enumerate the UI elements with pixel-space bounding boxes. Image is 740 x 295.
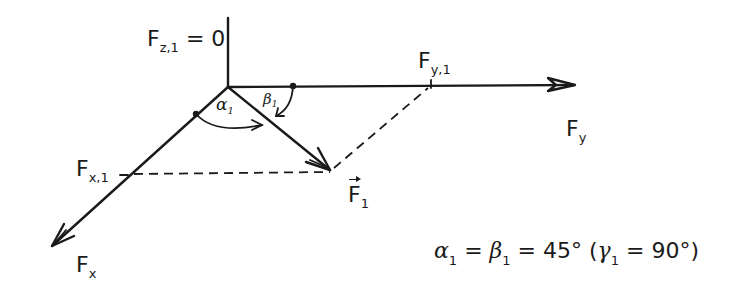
f1-vector-label: F1: [348, 184, 369, 206]
fx-axis-label: Fx: [76, 254, 96, 276]
y-axis-line: [228, 85, 574, 87]
alpha-arc-arrow-icon: [252, 120, 262, 130]
fy-axis-label: Fy: [566, 118, 586, 140]
alpha-angle-label: α1: [216, 96, 234, 113]
fx1-label: Fx,1: [76, 158, 109, 180]
fz1-label: Fz,1 = 0: [147, 28, 225, 50]
fx1-projection-dashed: [134, 172, 330, 174]
beta-arc: [276, 86, 293, 116]
beta-angle-label: β1: [263, 92, 277, 107]
fy1-projection-dashed: [334, 88, 428, 168]
angle-equation: α1 = β1 = 45° (γ1 = 90°): [434, 240, 699, 262]
alpha-arc: [196, 114, 262, 128]
fy1-label: Fy,1: [418, 50, 451, 72]
